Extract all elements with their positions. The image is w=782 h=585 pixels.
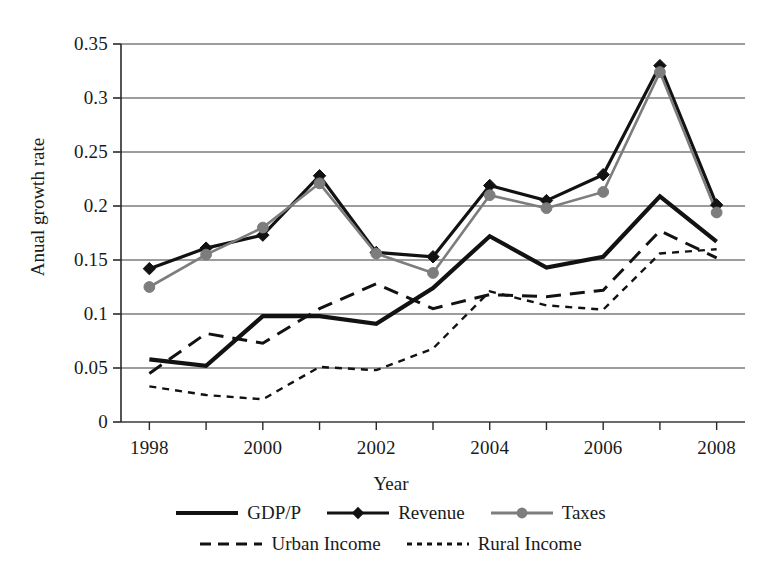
y-axis-title: Anual growth rate [27, 97, 49, 317]
circle-marker-line-swatch [491, 505, 553, 521]
legend-item-taxes[interactable]: Taxes [491, 503, 606, 522]
legend-item-revenue[interactable]: Revenue [327, 503, 464, 522]
legend-label: Urban Income [271, 534, 380, 553]
x-tick-label-2006: 2006 [558, 438, 648, 457]
legend-label: Revenue [398, 503, 464, 522]
legend-label: Rural Income [478, 534, 582, 553]
x-tick-label-1998: 1998 [104, 438, 194, 457]
x-tick-label-2008: 2008 [672, 438, 762, 457]
legend-item-urban-income[interactable]: Urban Income [200, 534, 380, 553]
marker-circle-2005 [541, 203, 552, 214]
y-tick-label-0: 0 [20, 412, 108, 431]
legend-label: Taxes [562, 503, 606, 522]
x-tick-label-2004: 2004 [445, 438, 535, 457]
marker-circle-2001 [314, 178, 325, 189]
chart-figure: 0.350.30.250.20.150.10.050 1998200020022… [0, 0, 782, 585]
series-line-revenue [149, 66, 716, 269]
chart-canvas [0, 0, 782, 585]
marker-diamond-2006 [597, 168, 609, 180]
solid-line-swatch [176, 505, 238, 521]
legend-label: GDP/P [247, 503, 301, 522]
marker-circle-2003 [428, 268, 439, 279]
legend-row-secondary: Urban IncomeRural Income [0, 534, 782, 553]
legend-item-rural-income[interactable]: Rural Income [407, 534, 582, 553]
marker-circle-1998 [144, 282, 155, 293]
x-tick-label-2002: 2002 [331, 438, 421, 457]
short-dashed-line-swatch [407, 536, 469, 552]
marker-circle-2007 [655, 67, 666, 78]
y-tick-label-0.05: 0.05 [20, 358, 108, 377]
legend-item-gdp-p[interactable]: GDP/P [176, 503, 301, 522]
marker-circle-2008 [711, 207, 722, 218]
x-axis-title: Year [0, 473, 782, 495]
marker-diamond-1998 [143, 262, 155, 274]
long-dashed-line-swatch [200, 536, 262, 552]
axis-ticks [113, 44, 717, 430]
marker-circle-1999 [201, 249, 212, 260]
legend-row-primary: GDP/PRevenueTaxes [0, 503, 782, 522]
marker-circle-2006 [598, 187, 609, 198]
marker-circle-2002 [371, 248, 382, 259]
x-tick-label-2000: 2000 [218, 438, 308, 457]
marker-circle-2004 [484, 190, 495, 201]
marker-circle-2000 [257, 222, 268, 233]
y-tick-label-0.35: 0.35 [20, 34, 108, 53]
diamond-marker-line-swatch [327, 505, 389, 521]
chart-legend: GDP/PRevenueTaxes Urban IncomeRural Inco… [0, 503, 782, 565]
series-layer [149, 66, 716, 400]
gridlines [121, 44, 745, 422]
